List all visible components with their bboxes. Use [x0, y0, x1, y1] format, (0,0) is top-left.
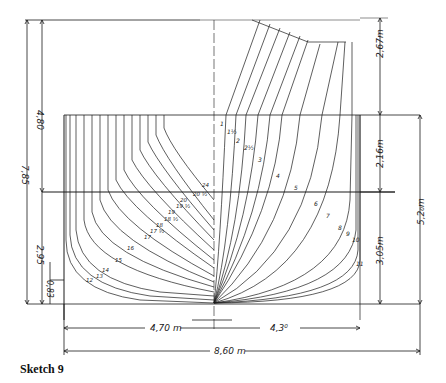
dim-total-height: 7,85 — [20, 165, 30, 185]
dim-lower-height: 2,95 — [35, 245, 45, 265]
svg-text:10: 10 — [352, 236, 360, 243]
dim-lower-right: 3,05m — [375, 236, 385, 265]
svg-text:17 ½: 17 ½ — [150, 228, 165, 234]
svg-text:6: 6 — [314, 200, 318, 207]
svg-text:5: 5 — [294, 184, 298, 191]
svg-text:13: 13 — [96, 273, 103, 279]
svg-text:2½: 2½ — [244, 144, 254, 151]
svg-text:20 ½: 20 ½ — [193, 191, 208, 197]
svg-text:2: 2 — [236, 137, 240, 144]
svg-text:3: 3 — [258, 156, 262, 163]
fwd-sections — [214, 20, 360, 303]
svg-text:19: 19 — [168, 209, 175, 215]
dim-mid-right: 2,16m — [375, 139, 385, 168]
svg-text:17: 17 — [144, 234, 151, 240]
aft-station-labels: 24 20 ½ 20 19 ½ 19 18 ½ 18 17 ½ 17 16 15… — [86, 182, 209, 283]
svg-text:24: 24 — [202, 182, 209, 188]
svg-text:9: 9 — [346, 230, 350, 237]
svg-text:16: 16 — [127, 245, 134, 251]
dim-upper-height: 4,80 — [35, 110, 45, 130]
svg-text:7: 7 — [326, 212, 330, 219]
dim-draft: 5,2₀m — [416, 198, 426, 225]
fwd-station-labels: 1 1½ 2 2½ 3 4 5 6 7 8 9 10 11 — [220, 120, 364, 267]
svg-text:19 ½: 19 ½ — [176, 203, 191, 209]
svg-text:4: 4 — [276, 172, 280, 179]
dim-keel-rise: 0,83 — [45, 280, 54, 298]
svg-text:11: 11 — [356, 260, 364, 267]
figure-caption: Sketch 9 — [20, 362, 64, 377]
dim-half-breadth-left: 4,70 m — [150, 323, 182, 333]
body-plan-drawing: 7,85 4,80 2,95 0,83 2,67m 2,16m 3,05m 5,… — [0, 0, 446, 383]
svg-text:15: 15 — [115, 257, 122, 263]
svg-text:12: 12 — [86, 277, 93, 283]
dim-half-breadth-right: 4,3⁰ — [270, 323, 288, 333]
svg-text:1: 1 — [220, 120, 224, 127]
svg-text:18 ½: 18 ½ — [164, 216, 179, 222]
svg-text:14: 14 — [102, 267, 109, 273]
dim-total-breadth: 8,60 m — [214, 346, 246, 356]
aft-sections — [66, 115, 214, 303]
dim-top-right: 2,67m — [375, 29, 385, 58]
svg-text:1½: 1½ — [227, 128, 237, 135]
svg-text:8: 8 — [338, 224, 342, 231]
